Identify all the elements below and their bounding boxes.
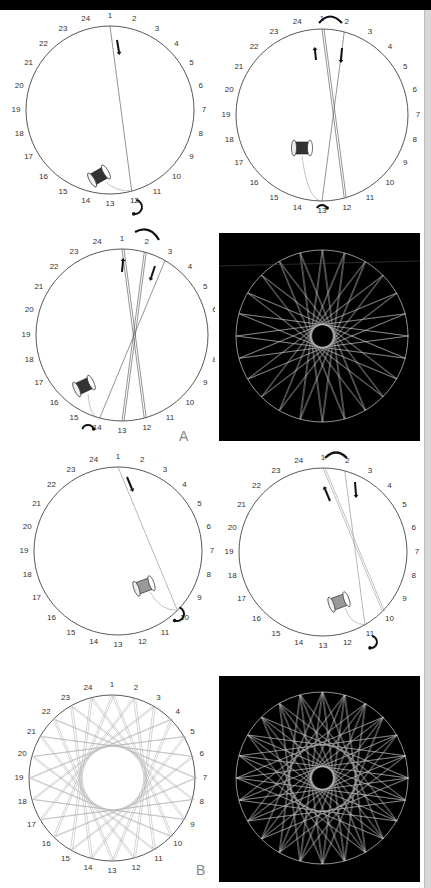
photo-thread [300,253,365,411]
pin-label: 21 [27,727,36,736]
photo-center-hole [313,327,331,345]
pin-label: 15 [59,187,68,196]
pin-label: 22 [39,39,48,48]
pin-label: 13 [319,641,328,650]
photo-thread [248,314,406,379]
thread-line [32,799,184,819]
pin-label: 15 [67,628,76,637]
pin-label: 23 [270,27,279,36]
pin-label: 22 [250,42,259,51]
section-label-a: A [179,428,188,444]
diagram-a-step1: 123456789101112131415161718192021222324 [0,10,215,222]
pin-label: 16 [42,839,51,848]
pin-label: 19 [20,546,29,555]
pin-label: 11 [166,413,175,422]
diagram-b-complete: 123456789101112131415161718192021222324 [0,670,215,888]
thread-line [135,706,155,858]
thread-line [32,737,184,757]
turn-arrow-icon [325,453,347,459]
pin-label: 21 [24,58,33,67]
pin-label: 23 [272,466,281,475]
pin-label: 24 [293,17,302,26]
thread-spool-icon [326,591,351,613]
pin-label: 21 [34,282,43,291]
pin-label: 18 [15,129,24,138]
photo-thread [301,253,366,411]
thread-line [42,737,194,757]
pin-circle [239,468,407,636]
top-black-bar [0,0,431,10]
thread-line [32,706,154,799]
pin-label: 20 [225,85,234,94]
pin-label: 6 [199,81,204,90]
thread-line [42,799,194,819]
pin-label: 6 [207,522,212,531]
pin-label: 19 [12,105,21,114]
pin-label: 17 [32,593,41,602]
photo-thread [239,314,397,379]
thread-line [124,252,146,421]
pin-label: 14 [293,203,302,212]
thread-line [53,719,112,861]
pin-label: 16 [250,178,259,187]
photo-thread [240,314,398,379]
pin-label: 4 [182,480,187,489]
pin-label: 9 [203,378,208,387]
photo-thread [301,262,366,420]
pin-label: 6 [413,85,418,94]
pin-label: 21 [234,62,243,71]
pin-label: 14 [89,637,98,646]
photo-thread [239,293,397,358]
pin-label: 2 [145,237,150,246]
pin-label: 22 [42,707,51,716]
pin-label: 16 [47,613,56,622]
pin-label: 5 [203,282,208,291]
direction-arrow-icon [149,266,155,281]
pin-label: 8 [213,355,215,364]
pin-label: 7 [203,773,208,782]
pin-label: 1 [108,11,113,20]
pin-label: 13 [114,640,123,649]
pin-label: 19 [22,330,31,339]
thread-line [122,249,144,418]
section-label-b: B [196,862,205,878]
pin-label: 1 [116,452,121,461]
pin-label: 17 [27,820,36,829]
pin-label: 21 [32,499,41,508]
thread-line [71,698,91,850]
pin-label: 10 [173,839,182,848]
pin-label: 11 [154,854,163,863]
thread-line [31,778,173,837]
pin-label: 18 [18,797,27,806]
pin-label: 11 [366,193,375,202]
pin-label: 18 [225,135,234,144]
thread-line [100,261,165,419]
pin-label: 20 [228,523,237,532]
pin-circle [236,29,408,201]
page-edge-strip [424,10,431,888]
pin-label: 5 [403,62,408,71]
thread-line [324,29,346,198]
pin-circle [29,695,195,861]
pin-label: 1 [110,680,115,689]
diagram-b-step1: 123456789101112131415161718192021222324 [0,450,215,662]
pin-label: 23 [67,465,76,474]
thread-tail [106,182,132,191]
pin-label: 5 [197,499,202,508]
pin-label: 22 [252,481,261,490]
thread-line [323,468,382,611]
thread-line [91,737,184,859]
thread-spool-icon [71,374,97,397]
pin-label: 9 [403,158,408,167]
pin-label: 6 [213,305,215,314]
pin-label: 21 [237,500,246,509]
diagram-b-step2: 123456789101112131415161718192021222324 [215,450,424,662]
thread-line [29,719,171,778]
pin-label: 9 [197,593,202,602]
pin-label: 4 [188,262,193,271]
pin-label: 16 [50,398,59,407]
pin-label: 10 [385,614,394,623]
pin-label: 14 [294,638,303,647]
pin-label: 15 [61,854,70,863]
pin-label: 15 [272,629,281,638]
